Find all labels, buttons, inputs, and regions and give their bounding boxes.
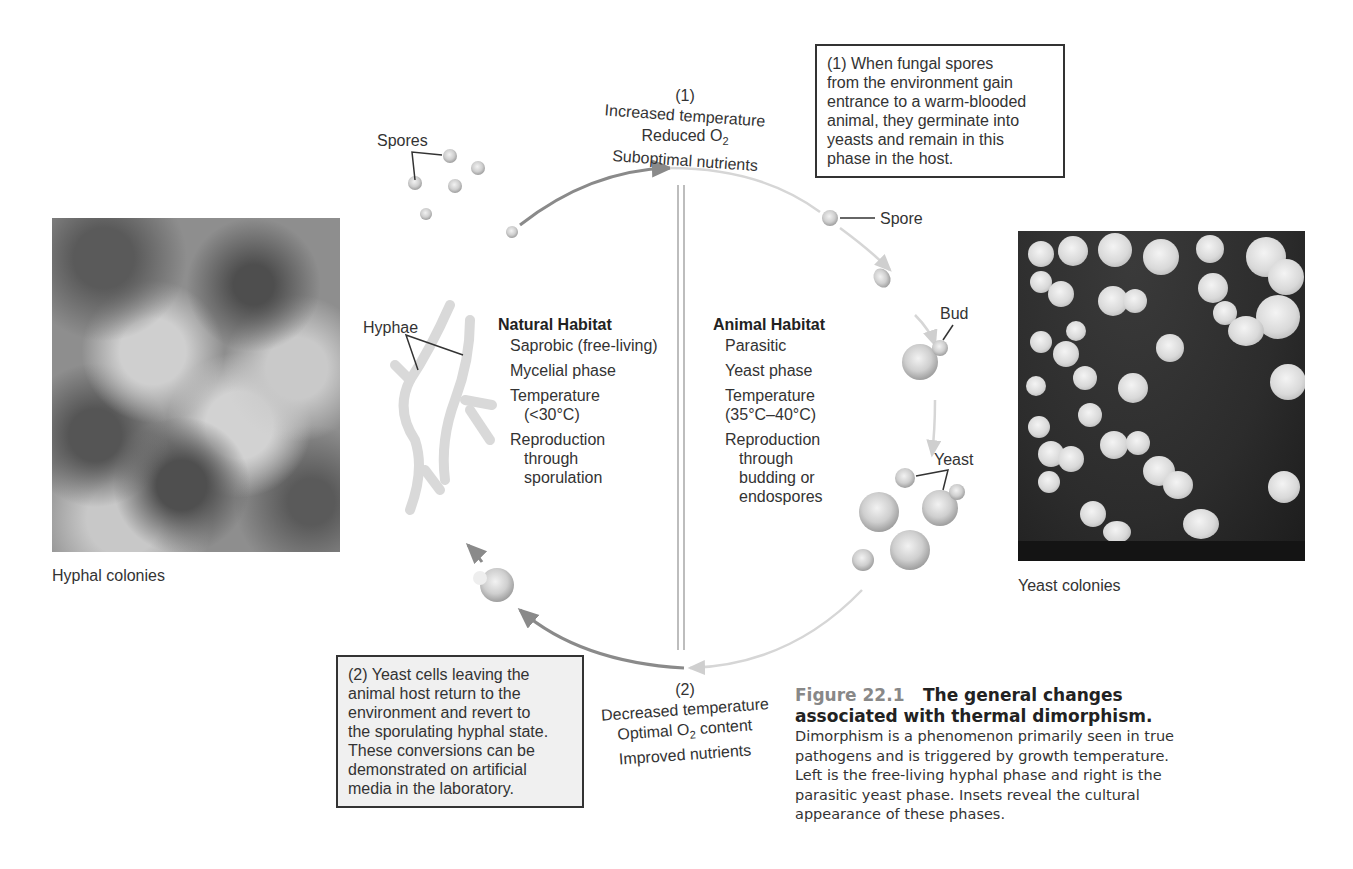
animal-habitat-line: Reproduction: [725, 430, 825, 449]
natural-habitat-panel: Natural Habitat Saprobic (free-living) M…: [498, 316, 658, 487]
note-box-2: (2) Yeast cells leaving the animal host …: [336, 655, 584, 808]
animal-habitat-line: Yeast phase: [725, 361, 825, 380]
spore-icon: [822, 210, 838, 226]
animal-habitat-line: endospores: [725, 487, 825, 506]
note-2-line: demonstrated on artificial: [348, 760, 572, 779]
natural-habitat-title: Natural Habitat: [498, 316, 658, 334]
natural-habitat-line: Saprobic (free-living): [510, 336, 658, 355]
animal-habitat-line: through: [725, 449, 825, 468]
note-2-line: animal host return to the: [348, 684, 572, 703]
animal-habitat-title: Animal Habitat: [713, 316, 825, 334]
transition-1-conditions: (1) Increased temperature Reduced O2 Sub…: [575, 86, 795, 171]
spores-icon: [408, 149, 518, 238]
arrow-to-animal-icon: [520, 168, 670, 225]
note-2-line: (2) Yeast cells leaving the: [348, 665, 572, 684]
note-2-line: the sporulating hyphal state.: [348, 722, 572, 741]
note-1-line: animal, they germinate into: [827, 111, 1053, 130]
natural-habitat-line: Reproduction: [510, 430, 658, 449]
natural-habitat-line: sporulation: [510, 468, 658, 487]
yeast-label: Yeast: [934, 450, 973, 469]
note-1-line: phase in the host.: [827, 149, 1053, 168]
animal-habitat-line: Parasitic: [725, 336, 825, 355]
spores-label: Spores: [377, 131, 428, 150]
transition-2-conditions: (2) Decreased temperature Optimal O2 con…: [580, 680, 790, 765]
yeast-cells-icon: [852, 468, 965, 571]
animal-habitat-line: Temperature: [725, 386, 825, 405]
note-2-line: These conversions can be: [348, 741, 572, 760]
animal-habitat-panel: Animal Habitat Parasitic Yeast phase Tem…: [713, 316, 825, 506]
note-1-line: (1) When fungal spores: [827, 54, 1053, 73]
bud-label: Bud: [940, 304, 968, 323]
note-2-line: environment and revert to: [348, 703, 572, 722]
hyphae-label: Hyphae: [363, 318, 418, 337]
figure-caption-body: Dimorphism is a phenomenon primarily see…: [795, 728, 1174, 822]
returning-yeast-icon: [480, 568, 514, 602]
natural-habitat-line: through: [510, 449, 658, 468]
animal-habitat-line: (35°C–40°C): [725, 405, 825, 424]
note-box-1: (1) When fungal spores from the environm…: [815, 44, 1065, 178]
note-1-line: from the environment gain: [827, 73, 1053, 92]
spore-label: Spore: [880, 209, 923, 228]
figure-number: Figure 22.1: [795, 685, 905, 705]
figure-caption: Figure 22.1 The general changes associat…: [795, 686, 1175, 825]
animal-habitat-line: budding or: [725, 468, 825, 487]
note-1-line: yeasts and remain in this: [827, 130, 1053, 149]
natural-habitat-line: Temperature: [510, 386, 658, 405]
note-2-line: media in the laboratory.: [348, 779, 572, 798]
note-1-line: entrance to a warm-blooded: [827, 92, 1053, 111]
natural-habitat-line: (<30°C): [510, 405, 658, 424]
natural-habitat-line: Mycelial phase: [510, 361, 658, 380]
